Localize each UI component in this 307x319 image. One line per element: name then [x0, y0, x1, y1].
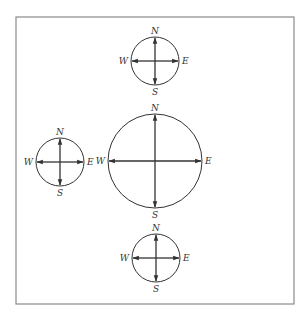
compass-label-e: E [86, 157, 94, 167]
compass-label-s: S [152, 87, 158, 97]
compass-bottom: NSEW [120, 223, 190, 294]
compass-diagram: NSEWNSEWNSEWNSEW [0, 0, 307, 319]
compass-label-w: W [96, 156, 106, 166]
compass-label-s: S [153, 284, 159, 294]
compass-label-e: E [204, 156, 212, 166]
compass-label-e: E [181, 56, 189, 66]
compass-label-n: N [150, 103, 160, 113]
compass-label-w: W [24, 157, 34, 167]
compass-label-s: S [57, 188, 63, 198]
compass-top: NSEW [119, 26, 189, 97]
compass-label-n: N [150, 26, 160, 36]
compass-label-n: N [55, 127, 65, 137]
compass-label-w: W [119, 56, 129, 66]
compass-label-e: E [182, 253, 190, 263]
compass-label-s: S [152, 210, 158, 220]
compass-left: NSEW [24, 127, 94, 198]
compass-label-w: W [120, 253, 130, 263]
compass-label-n: N [151, 223, 161, 233]
compass-center: NSEW [96, 103, 212, 220]
